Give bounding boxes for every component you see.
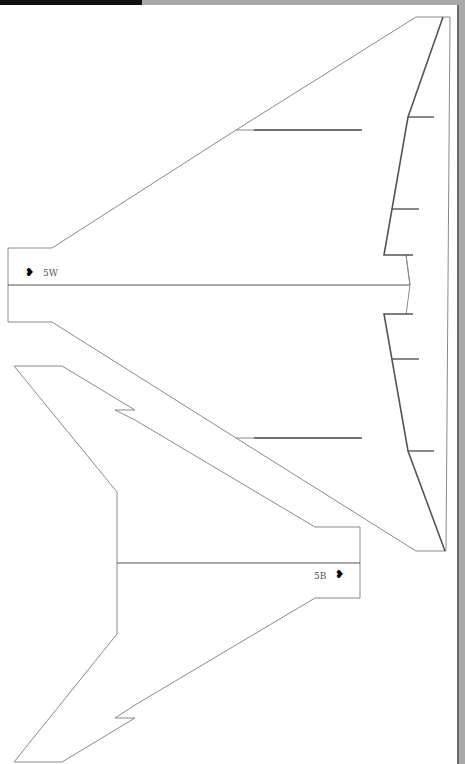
wing-elevon-top	[384, 17, 443, 255]
wing-elevon-bottom	[384, 314, 445, 551]
wing-outline-top-edge	[236, 17, 450, 551]
body-part	[14, 366, 360, 762]
wing-part	[8, 17, 450, 551]
wing-code-label: 5W	[43, 268, 58, 278]
body-outline	[14, 366, 360, 762]
body-marker-icon: ❥	[335, 568, 344, 581]
template-drawing	[0, 0, 465, 764]
body-code-label: 5B	[314, 571, 326, 581]
wing-marker-icon: ❥	[25, 266, 34, 279]
wing-outline	[8, 130, 360, 248]
